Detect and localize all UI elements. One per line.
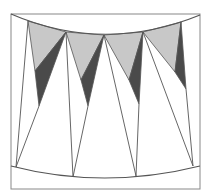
edge-line bbox=[16, 21, 28, 167]
edge-line bbox=[186, 89, 193, 166]
triangulation-diagram bbox=[0, 0, 208, 196]
edge-line bbox=[136, 104, 139, 176]
edge-line bbox=[66, 32, 73, 177]
bottom-arc bbox=[11, 166, 200, 178]
edge-line bbox=[73, 106, 88, 177]
edge-line bbox=[16, 106, 39, 167]
